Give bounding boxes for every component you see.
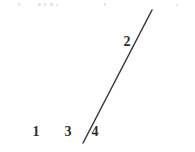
angle-label-2: 2 — [124, 35, 131, 49]
angle-label-3: 3 — [65, 125, 72, 139]
geometry-figure: 1 3 4 2 — [0, 0, 195, 152]
angle-label-4: 4 — [92, 125, 99, 139]
angle-label-1: 1 — [33, 125, 40, 139]
